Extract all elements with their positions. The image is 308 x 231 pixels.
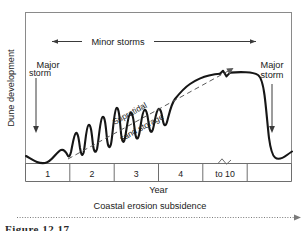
minor-storms-label: Minor storms	[91, 37, 144, 47]
minor-storms-annotation: Minor storms	[52, 34, 256, 49]
x-segment-label-4: 4	[178, 169, 183, 179]
x-segment-label-2: 2	[90, 169, 95, 179]
y-axis-label: Dune development	[6, 49, 16, 127]
arrowhead-down-left-icon	[33, 126, 39, 133]
arrowhead-dotted-icon	[294, 215, 301, 221]
x-segment-label-1: 1	[45, 169, 50, 179]
x-segment-label-3: 3	[134, 169, 139, 179]
arrowhead-left-icon	[52, 39, 58, 44]
plot-frame	[26, 13, 292, 164]
coastal-erosion-label: Coastal erosion subsidence	[94, 201, 207, 211]
arrowhead-right-icon	[250, 39, 256, 44]
major-storm-right-label: Major	[261, 60, 284, 70]
major-storm-right-label-line2: storm	[261, 70, 284, 80]
dune-development-chart: 1 2 3 4 to 10 Year Dune development Mino…	[0, 0, 308, 231]
x-axis-label: Year	[149, 185, 168, 195]
supratidal-trend-annotation: Supratidal sand storage	[68, 68, 234, 159]
major-storm-left-second-line: storm	[29, 69, 71, 79]
x-axis-band	[26, 159, 292, 182]
arrowhead-down-right-icon	[269, 126, 275, 133]
x-segment-label-to-10: to 10	[215, 169, 235, 179]
figure-root: 1 2 3 4 to 10 Year Dune development Mino…	[0, 0, 308, 231]
figure-caption-partial: Figure 12.17	[5, 224, 155, 231]
dune-development-curve-after-break	[230, 72, 292, 159]
coastal-erosion-annotation: Coastal erosion subsidence	[17, 201, 301, 220]
